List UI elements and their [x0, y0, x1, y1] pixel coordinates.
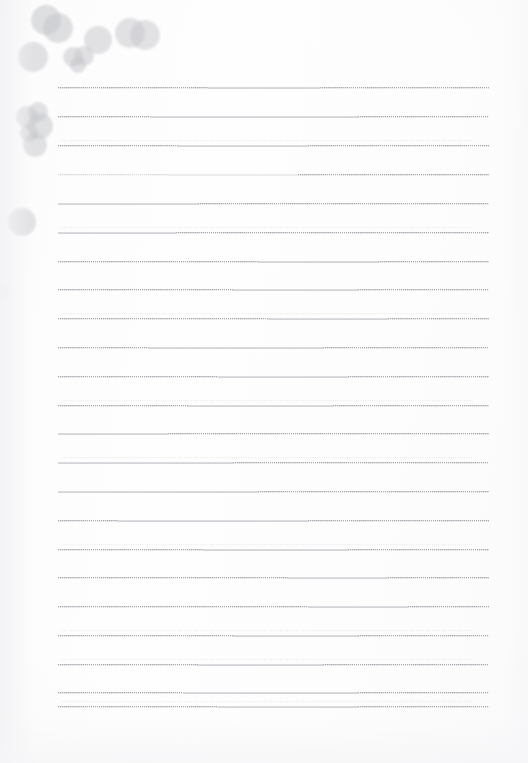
rule-line-segment [58, 261, 258, 263]
rule-line-segment [323, 347, 489, 349]
rule-line [58, 462, 489, 464]
rule-line-segment [58, 232, 176, 234]
rule-line-segment [308, 145, 489, 147]
rule-line-segment [198, 203, 489, 205]
rule-line [58, 261, 489, 263]
scanned-page [0, 0, 528, 763]
cluster2-blot-4 [20, 124, 38, 142]
rule-line-ghost [62, 659, 473, 661]
cluster2-blot-5 [23, 133, 47, 157]
rule-line [58, 87, 489, 89]
rule-line-segment [58, 520, 118, 522]
rule-line [58, 318, 489, 320]
rule-line-segment [58, 664, 198, 666]
rule-line-segment [58, 549, 203, 551]
scan-edge-shadow-left [0, 0, 34, 763]
cluster2-blot-2 [28, 102, 48, 122]
rule-line-segment [178, 145, 308, 147]
rule-line-segment [358, 635, 489, 637]
rule-line [58, 405, 489, 407]
rule-line-segment [183, 692, 358, 694]
rule-line-ghost [62, 701, 473, 703]
rule-line-segment [168, 174, 298, 176]
heart-blot-left [63, 47, 83, 67]
rule-line-segment [58, 606, 308, 608]
rule-line-ghost [62, 313, 473, 315]
rule-line-segment [348, 549, 489, 551]
ruled-lines-layer [0, 0, 528, 763]
rule-line-segment [58, 203, 198, 205]
rule-line-ghost [62, 140, 473, 142]
top-left-blot [18, 42, 48, 72]
rule-line [58, 145, 489, 147]
rule-line-segment [58, 635, 233, 637]
rule-line-segment [58, 289, 233, 291]
rule-line-segment [58, 376, 218, 378]
heart-blot-tail [70, 57, 86, 73]
rule-line [58, 376, 489, 378]
rule-line-segment [388, 318, 489, 320]
rule-line [58, 289, 489, 291]
pair-blot-right [130, 20, 160, 50]
rule-line-segment [258, 491, 489, 493]
rule-line-segment [198, 664, 323, 666]
rule-line-segment [58, 174, 168, 176]
rule-line-segment [358, 289, 489, 291]
lone-blot [8, 208, 36, 236]
rule-line [58, 347, 489, 349]
rule-line-segment [218, 376, 348, 378]
rule-line-segment [58, 462, 233, 464]
rule-line-ghost [62, 457, 473, 459]
rule-line-segment [58, 87, 208, 89]
heart-blot-right [74, 46, 94, 66]
rule-line-segment [288, 577, 388, 579]
rule-line-segment [233, 289, 358, 291]
rule-line-segment [333, 405, 489, 407]
rule-line-segment [58, 491, 258, 493]
rule-line [58, 606, 489, 608]
rule-line [58, 706, 489, 708]
rule-line [58, 520, 489, 522]
top-cluster-blot-2 [43, 13, 73, 43]
rule-line-segment [58, 577, 288, 579]
edge-smudge [0, 284, 10, 298]
rule-line [58, 664, 489, 666]
cluster2-blot-3 [27, 113, 53, 139]
rule-line-segment [58, 145, 178, 147]
rule-line [58, 174, 489, 176]
paper-grain [0, 0, 528, 763]
rule-line-segment [118, 520, 308, 522]
rule-line [58, 116, 489, 118]
rule-line-segment [298, 174, 489, 176]
rule-line-segment [203, 549, 348, 551]
rule-line [58, 491, 489, 493]
rule-line [58, 203, 489, 205]
rule-line-segment [233, 635, 358, 637]
rule-line-segment [348, 376, 489, 378]
paper-tint [0, 0, 528, 763]
rule-line [58, 549, 489, 551]
rule-line-segment [308, 520, 489, 522]
rule-line [58, 433, 489, 435]
rule-line-segment [388, 577, 489, 579]
rule-line-segment [58, 405, 188, 407]
rule-line-segment [218, 706, 358, 708]
rule-line-segment [358, 116, 489, 118]
rule-line-segment [58, 692, 183, 694]
rule-line-ghost [62, 544, 473, 546]
scan-edge-shadow-bottom [0, 715, 528, 763]
rule-line-segment [58, 347, 148, 349]
rule-line-segment [168, 433, 489, 435]
scan-edge-shadow-right [502, 0, 528, 763]
pair-blot-left [115, 18, 145, 48]
rule-line-segment [58, 318, 268, 320]
rule-line-segment [358, 692, 489, 694]
rule-line-segment [58, 116, 150, 118]
rule-line-segment [323, 664, 489, 666]
rule-line-segment [408, 606, 489, 608]
rule-line [58, 635, 489, 637]
cluster2-blot-1 [16, 106, 38, 128]
ink-blots-layer [0, 0, 528, 763]
rule-line-segment [378, 261, 489, 263]
rule-line-ghost [62, 227, 473, 229]
